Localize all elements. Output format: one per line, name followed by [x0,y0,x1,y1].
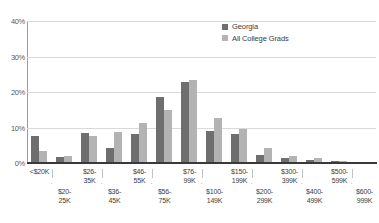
bar-georgia [181,82,189,163]
bar-all-college-grads [189,80,197,163]
x-axis-label: $400-499K [296,188,334,205]
bar-georgia [231,134,239,163]
bar-chart: 0%10%20%30%40% GeorgiaAll College Grads … [0,0,379,223]
chart-legend: GeorgiaAll College Grads [222,22,289,45]
x-axis-label: $36-45K [96,188,134,205]
y-tick-label: 20% [0,88,25,97]
x-axis-label: $1MM-1.5MM [371,168,379,185]
bar-georgia [156,97,164,163]
x-axis-dot: · [201,180,203,187]
x-axis-separator [352,169,353,178]
bar-group [326,21,351,163]
x-axis-separator [252,169,253,178]
x-axis-label: $56-75K [146,188,184,205]
y-tick-label: 30% [0,53,25,62]
x-axis-separator [152,169,153,178]
x-axis-dot: · [351,180,353,187]
bar-all-college-grads [89,136,97,163]
legend-item[interactable]: All College Grads [222,34,289,43]
bar-georgia [81,133,89,163]
x-axis-separator [202,169,203,178]
bar-georgia [106,148,114,163]
x-axis-dot: · [151,180,153,187]
bar-group [152,21,177,163]
x-axis-separator [52,169,53,178]
bar-all-college-grads [264,148,272,163]
bar-georgia [31,136,39,163]
bar-group [301,21,326,163]
x-axis-dot: · [301,180,303,187]
x-axis-label: $200-299K [246,188,284,205]
legend-label: All College Grads [232,34,289,43]
x-axis-label: $100-149K [196,188,234,205]
plot-area [27,21,376,163]
bar-groups [27,21,376,163]
legend-swatch-icon [222,24,228,30]
bar-group [177,21,202,163]
x-axis-label: $600-999K [346,188,379,205]
bar-georgia [131,134,139,163]
bar-group [77,21,102,163]
legend-label: Georgia [232,22,258,31]
y-tick-label: 10% [0,124,25,133]
bar-group [52,21,77,163]
x-axis-separator [102,169,103,178]
bar-group [27,21,52,163]
bar-group [102,21,127,163]
bar-group [127,21,152,163]
bar-all-college-grads [239,129,247,163]
x-axis-line [27,162,377,164]
legend-item[interactable]: Georgia [222,22,289,31]
legend-swatch-icon [222,35,228,41]
y-tick-label: 0% [0,159,25,168]
x-axis-dot: · [101,180,103,187]
bar-all-college-grads [164,110,172,163]
bar-all-college-grads [114,132,122,163]
x-axis-label: $20-25K [46,188,84,205]
x-axis-dot: · [51,180,53,187]
bar-all-college-grads [214,118,222,163]
bar-georgia [206,131,214,163]
x-axis-labels: <$20K$26-35K$46-55K$76-99K$150-199K$300-… [27,166,377,223]
x-axis-dot: · [251,180,253,187]
bar-group [351,21,376,163]
y-tick-label: 40% [0,17,25,26]
bar-all-college-grads [139,123,147,163]
x-axis-separator [302,169,303,178]
